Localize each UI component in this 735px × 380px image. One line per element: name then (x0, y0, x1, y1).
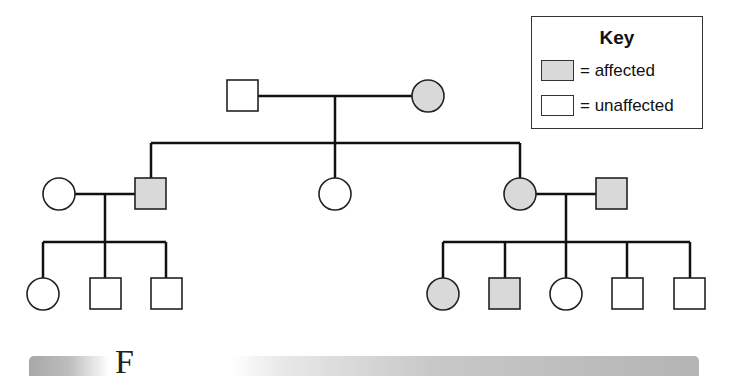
individual-iii5-male-affected (489, 278, 520, 309)
legend-key: Key = affected = unaffected (531, 16, 703, 129)
individual-ii1-male-affected (135, 178, 166, 209)
individual-i1-male-unaffected (227, 80, 258, 111)
individual-i2-female-affected (412, 80, 444, 112)
individual-ii2-female-unaffected (319, 178, 351, 210)
individual-iii2-male-unaffected (90, 278, 121, 309)
individual-ii-spouse1-female-unaffected (43, 178, 75, 210)
individual-iii8-male-unaffected (674, 278, 705, 309)
individual-ii-spouse2-male-affected (596, 178, 627, 209)
individual-iii1-female-unaffected (27, 278, 59, 310)
legend-item-affected: = affected (541, 60, 655, 81)
individual-ii3-female-affected (504, 178, 536, 210)
figure-caption-label: F (115, 345, 136, 379)
affected-swatch-icon (541, 60, 574, 81)
legend-label-unaffected: = unaffected (580, 96, 674, 116)
legend-label-affected: = affected (580, 61, 655, 81)
unaffected-swatch-icon (541, 95, 574, 116)
individual-iii7-male-unaffected (612, 278, 643, 309)
legend-item-unaffected: = unaffected (541, 95, 674, 116)
individual-iii6-female-unaffected (550, 278, 582, 310)
legend-title: Key (532, 27, 702, 49)
individual-iii3-male-unaffected (151, 278, 182, 309)
individual-iii4-female-affected (427, 278, 459, 310)
